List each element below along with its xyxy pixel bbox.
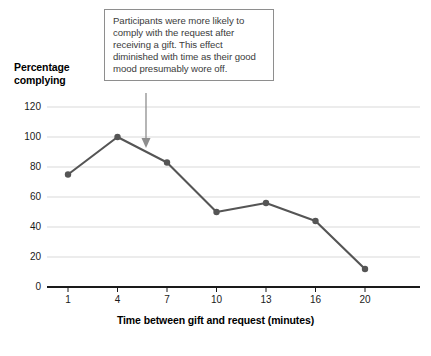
data-point <box>362 266 368 272</box>
data-point <box>213 209 219 215</box>
y-tick-label: 80 <box>15 161 41 172</box>
y-tick-label: 0 <box>15 281 41 292</box>
data-point <box>263 200 269 206</box>
data-point <box>164 159 170 165</box>
y-tick-label: 100 <box>15 131 41 142</box>
annotation-arrow <box>142 93 151 148</box>
x-tick-label: 1 <box>56 294 80 305</box>
x-tick-label: 10 <box>205 294 229 305</box>
y-tick-label: 40 <box>15 221 41 232</box>
data-markers <box>65 134 368 272</box>
chart-figure: Percentage complying 020406080100120 147… <box>0 0 431 356</box>
annotation-text: Participants were more likely to comply … <box>113 15 256 74</box>
y-tick-label: 60 <box>15 191 41 202</box>
y-tick-label: 20 <box>15 251 41 262</box>
data-point <box>312 218 318 224</box>
x-tick-label: 4 <box>106 294 130 305</box>
x-axis-title: Time between gift and request (minutes) <box>0 314 431 326</box>
data-point <box>65 171 71 177</box>
gridlines <box>47 107 420 257</box>
data-point <box>114 134 120 140</box>
x-tick-label: 20 <box>353 294 377 305</box>
x-tick-label: 7 <box>155 294 179 305</box>
y-tick-label: 120 <box>15 101 41 112</box>
data-line <box>68 137 365 269</box>
x-tick-label: 16 <box>304 294 328 305</box>
x-tick-label: 13 <box>254 294 278 305</box>
annotation-textbox: Participants were more likely to comply … <box>104 9 274 81</box>
